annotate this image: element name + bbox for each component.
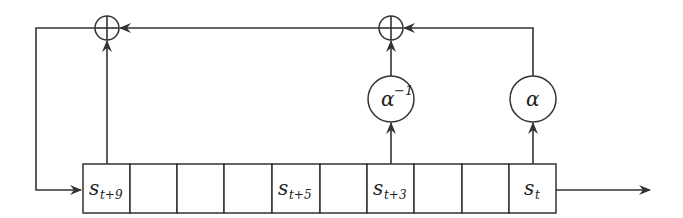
register-cell <box>462 164 509 213</box>
svg-text:s: s <box>524 176 534 200</box>
svg-text:t: t <box>535 188 540 202</box>
xor-left <box>95 16 119 40</box>
register-cell <box>177 164 224 213</box>
svg-text:s: s <box>89 176 99 200</box>
register-cell <box>414 164 462 213</box>
lfsr-diagram: α −1 α s t+9 s t+5 s t+3 s t <box>0 0 683 218</box>
register-cell <box>130 164 177 213</box>
multiplier-superscript: −1 <box>394 83 413 98</box>
feedback-wire-alpha <box>404 28 533 76</box>
svg-text:s: s <box>278 176 288 200</box>
multiplier-alpha: α <box>510 76 556 122</box>
register-cell <box>320 164 367 213</box>
svg-text:t+5: t+5 <box>289 188 312 202</box>
multiplier-alpha-inverse: α −1 <box>368 76 414 122</box>
multiplier-symbol: α <box>526 87 540 111</box>
svg-text:t+3: t+3 <box>384 188 407 202</box>
svg-text:s: s <box>373 176 383 200</box>
xor-right <box>379 16 403 40</box>
register-cell <box>224 164 272 213</box>
svg-text:t+9: t+9 <box>100 188 123 202</box>
multiplier-symbol: α <box>381 87 395 111</box>
shift-register: s t+9 s t+5 s t+3 s t <box>83 164 556 213</box>
